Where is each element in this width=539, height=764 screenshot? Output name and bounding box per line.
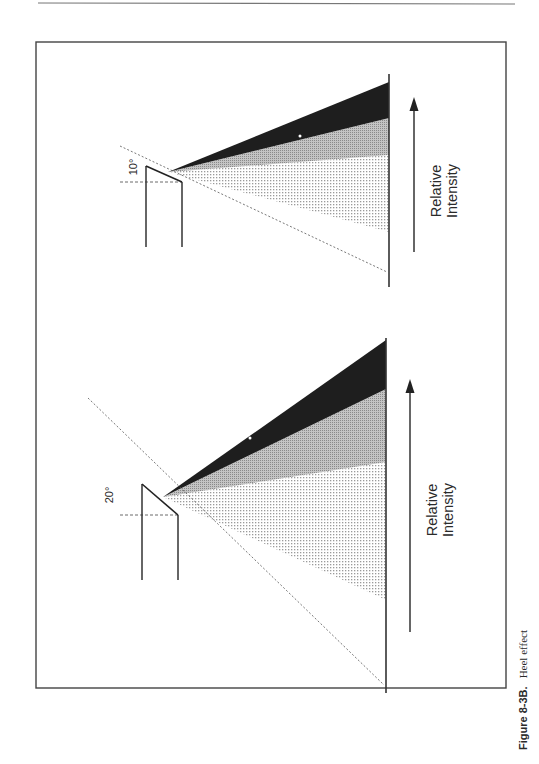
figure-caption: Figure 8-3B. Heel effect (517, 630, 529, 750)
svg-text:Figure 8-3B. Heel effect: Figure 8-3B. Heel effect (517, 630, 529, 750)
top-axis-label-line2: Intensity (444, 163, 460, 218)
bottom-intensity-arrow-icon (406, 379, 415, 632)
top-anode (146, 166, 182, 247)
heel-effect-figure: 10° Relative Intensity 20° Relative Inte… (0, 0, 539, 764)
bottom-angle-label: 20° (103, 487, 115, 504)
top-axis-label-line1: Relative (428, 165, 444, 217)
bottom-axis-label-line1: Relative (424, 484, 440, 536)
caption-text: Heel effect (517, 630, 529, 678)
page-top-rule (38, 3, 515, 4)
top-intensity-arrow-icon (410, 97, 419, 252)
caption-label: Figure 8-3B. (517, 686, 529, 750)
diagram-top: 10° Relative Intensity (120, 74, 460, 287)
diagram-bottom: 20° Relative Intensity (88, 338, 456, 693)
top-angle-label: 10° (127, 159, 139, 176)
bottom-axis-label-line2: Intensity (440, 482, 456, 537)
